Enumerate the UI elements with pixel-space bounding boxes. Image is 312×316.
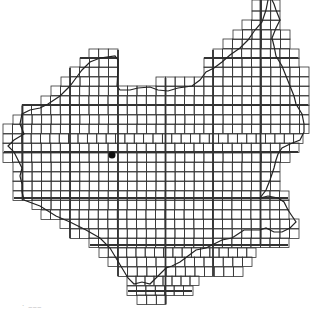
site-marker-icon — [109, 152, 116, 159]
grid-map — [0, 0, 312, 316]
map-caption: . ___ — [22, 300, 42, 308]
